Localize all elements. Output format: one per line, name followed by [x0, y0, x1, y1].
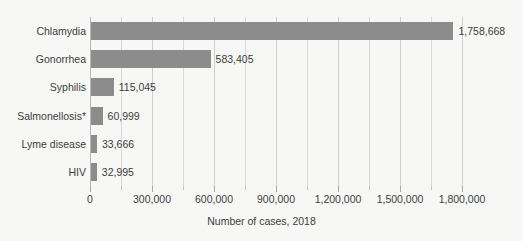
x-tick-label: 600,000 — [195, 193, 233, 205]
bar-value-label: 60,999 — [103, 107, 140, 125]
category-label: Salmonellosis* — [0, 102, 86, 130]
category-label: Lyme disease — [0, 130, 86, 158]
plot-area: 1,758,668583,405115,04560,99933,66632,99… — [90, 17, 462, 186]
x-tick-label: 1,800,000 — [439, 193, 486, 205]
x-axis-tick-labels: 0300,000600,000900,0001,200,0001,500,000… — [0, 193, 523, 207]
x-tick-label: 900,000 — [257, 193, 295, 205]
category-label: Chlamydia — [0, 17, 86, 45]
bar-row: 115,045 — [90, 73, 462, 101]
tick-major — [90, 186, 91, 192]
tick-major — [400, 186, 401, 192]
bar-row: 60,999 — [90, 102, 462, 130]
x-tick-label: 1,200,000 — [315, 193, 362, 205]
x-tick-label: 300,000 — [133, 193, 171, 205]
bar-value-label: 583,405 — [211, 50, 254, 68]
tick-minor — [431, 186, 432, 190]
tick-minor — [245, 186, 246, 190]
x-tick-label: 1,500,000 — [377, 193, 424, 205]
bar-chart: 1,758,668583,405115,04560,99933,66632,99… — [0, 0, 523, 241]
bar — [90, 22, 453, 40]
x-axis-title: Number of cases, 2018 — [0, 215, 523, 227]
tick-major — [338, 186, 339, 192]
bar — [90, 135, 97, 153]
bar — [90, 163, 97, 181]
bar-value-label: 115,045 — [114, 78, 156, 96]
tick-minor — [121, 186, 122, 190]
tick-minor — [183, 186, 184, 190]
bar-series: 1,758,668583,405115,04560,99933,66632,99… — [90, 17, 462, 186]
x-axis-ticks — [90, 186, 462, 192]
tick-major — [214, 186, 215, 192]
bar-row: 32,995 — [90, 158, 462, 186]
bar — [90, 107, 103, 125]
bar-value-label: 33,666 — [97, 135, 134, 153]
x-tick-label: 0 — [87, 193, 93, 205]
tick-major — [276, 186, 277, 192]
tick-major — [152, 186, 153, 192]
category-label: HIV — [0, 158, 86, 186]
bar — [90, 50, 211, 68]
bar-row: 33,666 — [90, 130, 462, 158]
gridline-major — [462, 17, 463, 186]
bar-value-label: 1,758,668 — [453, 22, 505, 40]
category-label: Gonorrhea — [0, 45, 86, 73]
bar-value-label: 32,995 — [97, 163, 134, 181]
tick-minor — [369, 186, 370, 190]
y-axis-line — [90, 17, 91, 186]
tick-minor — [307, 186, 308, 190]
bar-row: 583,405 — [90, 45, 462, 73]
category-label: Syphilis — [0, 73, 86, 101]
bar-row: 1,758,668 — [90, 17, 462, 45]
tick-major — [462, 186, 463, 192]
bar — [90, 78, 114, 96]
category-axis-labels: ChlamydiaGonorrheaSyphilisSalmonellosis*… — [0, 17, 86, 186]
